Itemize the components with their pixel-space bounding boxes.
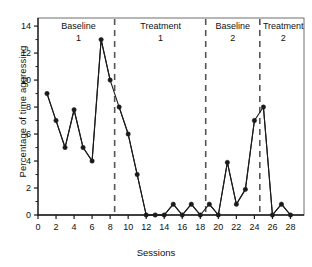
data-point-marker <box>153 213 157 217</box>
data-line-baseline-2 <box>209 121 254 215</box>
x-axis-tick-label: 2 <box>54 222 59 232</box>
phase-label-name: Treatment <box>140 21 181 31</box>
data-point-marker <box>270 213 274 217</box>
data-point-marker <box>99 37 103 41</box>
x-axis-tick-label: 16 <box>177 222 187 232</box>
phase-label-number: 2 <box>281 33 286 43</box>
x-axis-tick-label: 26 <box>267 222 277 232</box>
x-axis-tick-label: 22 <box>231 222 241 232</box>
data-point-marker <box>198 213 202 217</box>
phase-label-name: Baseline <box>216 21 251 31</box>
data-point-marker <box>72 108 76 112</box>
data-point-marker <box>135 172 139 176</box>
data-point-marker <box>54 118 58 122</box>
y-axis-tick-label: 0 <box>26 210 31 220</box>
x-axis-tick-label: 4 <box>72 222 77 232</box>
y-axis-tick-label: 8 <box>26 102 31 112</box>
phase-label-number: 1 <box>158 33 163 43</box>
data-point-marker <box>81 145 85 149</box>
data-point-marker <box>171 202 175 206</box>
y-axis-tick-label: 12 <box>21 48 31 58</box>
data-point-marker <box>225 160 229 164</box>
y-axis-tick-label: 14 <box>21 21 31 31</box>
phase-label-number: 1 <box>76 33 81 43</box>
data-point-marker <box>90 159 94 163</box>
x-axis-tick-label: 18 <box>195 222 205 232</box>
data-point-marker <box>288 213 292 217</box>
phase-label-number: 2 <box>230 33 235 43</box>
y-axis-tick-label: 4 <box>26 156 31 166</box>
data-point-marker <box>261 105 265 109</box>
data-point-marker <box>234 202 238 206</box>
data-point-marker <box>180 213 184 217</box>
data-point-marker <box>162 213 166 217</box>
data-point-marker <box>144 213 148 217</box>
x-axis-tick-label: 12 <box>141 222 151 232</box>
y-axis-tick-label: 10 <box>21 75 31 85</box>
data-point-marker <box>189 202 193 206</box>
x-axis-tick-label: 24 <box>249 222 259 232</box>
phase-label-name: Baseline <box>61 21 96 31</box>
data-point-marker <box>63 145 67 149</box>
x-axis-tick-label: 0 <box>35 222 40 232</box>
data-point-marker <box>279 202 283 206</box>
data-point-marker <box>126 132 130 136</box>
data-line-baseline-1 <box>47 40 110 161</box>
x-axis-tick-label: 14 <box>159 222 169 232</box>
x-axis-tick-label: 10 <box>123 222 133 232</box>
x-axis-tick-label: 20 <box>213 222 223 232</box>
line-chart-plot: 024681012140246810121416182022242628Base… <box>0 0 312 267</box>
data-point-marker <box>243 187 247 191</box>
y-axis-tick-label: 6 <box>26 129 31 139</box>
data-point-marker <box>45 91 49 95</box>
x-axis-tick-label: 8 <box>108 222 113 232</box>
data-line-treatment-1 <box>119 107 200 215</box>
figure: Percentage of time aggressing Sessions 0… <box>0 0 312 267</box>
data-point-marker <box>117 105 121 109</box>
data-point-marker <box>252 118 256 122</box>
y-axis-tick-label: 2 <box>26 183 31 193</box>
data-line-full <box>47 40 290 215</box>
data-point-marker <box>108 78 112 82</box>
data-point-marker <box>207 202 211 206</box>
data-point-marker <box>216 213 220 217</box>
x-axis-tick-label: 6 <box>90 222 95 232</box>
x-axis-tick-label: 28 <box>285 222 295 232</box>
phase-label-name: Treatment <box>263 21 304 31</box>
